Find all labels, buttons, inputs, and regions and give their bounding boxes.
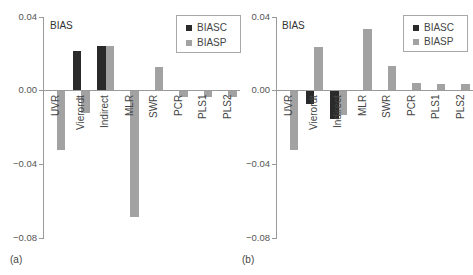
bar-biasp-indirect xyxy=(106,46,115,90)
bar-biasp-pls2 xyxy=(461,84,470,90)
swatch-biasp-icon xyxy=(413,39,419,45)
y-tick xyxy=(39,17,43,18)
y-tick-label: −0.08 xyxy=(3,233,37,243)
swatch-biasc-icon xyxy=(186,25,192,31)
x-category-label: MLR xyxy=(358,95,368,116)
legend-item-biasc: BIASC xyxy=(413,22,454,33)
legend-item-biasp: BIASP xyxy=(413,36,453,47)
chart-title: BIAS xyxy=(50,20,73,31)
bar-biasc-indirect xyxy=(97,46,106,90)
y-tick-label: 0.04 xyxy=(3,12,37,22)
bar-biasp-vierordt xyxy=(314,47,323,90)
bar-biasp-swr xyxy=(388,66,397,90)
x-category-label: PLS2 xyxy=(223,95,233,119)
bar-biasc-vierordt xyxy=(73,51,82,90)
y-axis xyxy=(276,17,277,239)
legend: BIASC BIASP xyxy=(403,15,468,52)
legend-label: BIASC xyxy=(424,22,454,33)
bar-biasp-pls1 xyxy=(437,84,446,90)
x-category-label: PLS1 xyxy=(198,95,208,119)
y-tick-label: 0.00 xyxy=(3,85,37,95)
y-tick-label: 0.04 xyxy=(236,12,270,22)
y-tick-label: −0.04 xyxy=(3,159,37,169)
y-tick xyxy=(272,90,276,91)
swatch-biasc-icon xyxy=(413,25,419,31)
x-category-label: Vierordt xyxy=(76,95,86,130)
x-category-label: UVR xyxy=(284,95,294,116)
y-tick xyxy=(39,164,43,165)
panel-label: (a) xyxy=(10,254,22,265)
x-category-label: Vierordt xyxy=(309,95,319,130)
swatch-biasp-icon xyxy=(186,40,192,46)
x-category-label: SWR xyxy=(382,95,392,118)
x-category-label: Indirect xyxy=(333,95,343,128)
x-category-label: PCR xyxy=(407,95,417,116)
y-tick xyxy=(272,238,276,239)
bar-biasp-pcr xyxy=(412,83,421,90)
chart-panel-a: 0.04 0.00 −0.04 −0.08 BIAS BIASC BIASP (… xyxy=(0,0,240,275)
x-category-label: PLS2 xyxy=(456,95,466,119)
legend-label: BIASP xyxy=(197,37,226,48)
chart-panel-b: 0.04 0.00 −0.04 −0.08 BIAS BIASC BIASP (… xyxy=(233,0,473,275)
y-axis xyxy=(43,17,44,239)
x-category-label: SWR xyxy=(149,95,159,118)
y-tick-label: 0.00 xyxy=(236,85,270,95)
x-category-label: MLR xyxy=(125,95,135,116)
y-tick xyxy=(39,90,43,91)
x-category-label: Indirect xyxy=(100,95,110,128)
y-tick-label: −0.04 xyxy=(236,159,270,169)
legend: BIASC BIASP xyxy=(176,15,241,53)
legend-item-biasp: BIASP xyxy=(186,37,226,48)
y-tick xyxy=(272,17,276,18)
panel-label: (b) xyxy=(242,254,254,265)
legend-label: BIASC xyxy=(197,22,227,33)
y-tick xyxy=(272,164,276,165)
bar-biasp-mlr xyxy=(363,29,372,90)
y-tick xyxy=(39,238,43,239)
bar-biasp-swr xyxy=(155,67,164,90)
chart-title: BIAS xyxy=(282,20,305,31)
legend-item-biasc: BIASC xyxy=(186,22,227,33)
legend-label: BIASP xyxy=(424,36,453,47)
x-category-label: PCR xyxy=(174,95,184,116)
y-tick-label: −0.08 xyxy=(236,233,270,243)
x-category-label: UVR xyxy=(51,95,61,116)
x-category-label: PLS1 xyxy=(431,95,441,119)
